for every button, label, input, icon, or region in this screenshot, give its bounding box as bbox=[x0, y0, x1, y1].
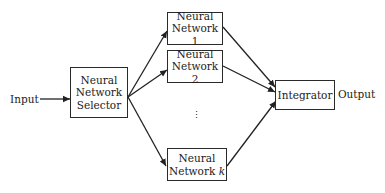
nn1-line-1: Neural bbox=[177, 10, 214, 23]
nnk-variable-k: k bbox=[219, 165, 225, 177]
nnk-line-2: Network k bbox=[169, 165, 225, 178]
neural-network-1-box: Neural Network 1 bbox=[167, 12, 223, 45]
neural-network-k-box: Neural Network k bbox=[167, 148, 227, 181]
output-label: Output bbox=[338, 88, 375, 100]
selector-line-2: Network bbox=[76, 86, 122, 99]
nn2-line-1: Neural bbox=[177, 48, 214, 61]
selector-line-1: Neural bbox=[81, 74, 118, 87]
integrator-label: Integrator bbox=[278, 89, 333, 102]
integrator-box: Integrator bbox=[275, 80, 335, 110]
selector-line-3: Selector bbox=[77, 99, 121, 112]
input-label: Input bbox=[10, 93, 39, 105]
nnk-line-1: Neural bbox=[179, 152, 216, 165]
nn2-line-2: Network 2 bbox=[168, 60, 222, 85]
nnk-line-2-prefix: Network bbox=[169, 165, 219, 177]
neural-network-2-box: Neural Network 2 bbox=[167, 50, 223, 83]
ellipsis-vertical: ⋮ bbox=[192, 109, 201, 121]
nn1-line-2: Network 1 bbox=[168, 22, 222, 47]
neural-network-selector-box: Neural Network Selector bbox=[70, 67, 128, 118]
